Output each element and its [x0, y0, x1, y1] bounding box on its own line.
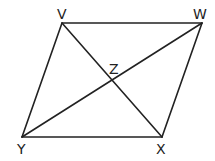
diagram-canvas: V W X Y Z	[0, 0, 215, 161]
side-yv	[22, 23, 62, 137]
side-wx	[162, 23, 202, 137]
vertex-label-v: V	[57, 6, 67, 22]
diagonal-yw	[22, 23, 202, 137]
intersection-label-z: Z	[109, 61, 119, 77]
vertex-label-w: W	[193, 6, 207, 22]
vertex-label-y: Y	[16, 141, 26, 157]
vertex-label-x: X	[156, 141, 166, 157]
parallelogram-diagram: V W X Y Z	[0, 0, 215, 161]
